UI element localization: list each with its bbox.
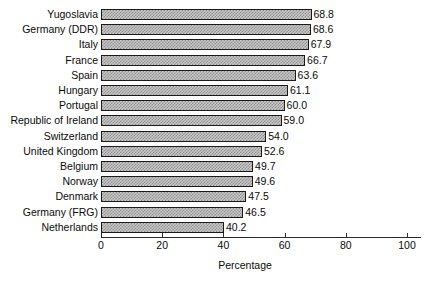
bar xyxy=(101,176,253,187)
x-axis-tick xyxy=(285,233,286,237)
bar-row: 61.1 xyxy=(101,85,407,96)
category-label: Belgium xyxy=(0,161,98,172)
category-label: Norway xyxy=(0,176,98,187)
category-label: Spain xyxy=(0,70,98,81)
x-axis-title: Percentage xyxy=(0,259,442,271)
category-axis-labels: YugoslaviaGermany (DDR)ItalyFranceSpainH… xyxy=(0,9,98,237)
category-label: Netherlands xyxy=(0,222,98,233)
bar xyxy=(101,85,288,96)
bar-row: 59.0 xyxy=(101,115,407,126)
bar-row: 40.2 xyxy=(101,222,407,233)
bar xyxy=(101,24,311,35)
bar-row: 54.0 xyxy=(101,131,407,142)
bar-row: 46.5 xyxy=(101,207,407,218)
bar-row: 68.8 xyxy=(101,9,407,20)
bar-value-label: 61.1 xyxy=(288,84,310,96)
bar-row: 47.5 xyxy=(101,191,407,202)
category-label: United Kingdom xyxy=(0,146,98,157)
plot-area: 68.868.667.966.763.661.160.059.054.052.6… xyxy=(101,9,407,237)
x-axis-tick-label: 80 xyxy=(340,239,352,251)
bar-row: 60.0 xyxy=(101,100,407,111)
bar-row: 68.6 xyxy=(101,24,407,35)
bar xyxy=(101,161,253,172)
x-axis-tick-label: 100 xyxy=(398,239,416,251)
bar-row: 63.6 xyxy=(101,70,407,81)
bar xyxy=(101,207,243,218)
bar xyxy=(101,222,224,233)
x-axis-title-text: Percentage xyxy=(170,259,272,271)
x-axis-tick-label: 60 xyxy=(279,239,291,251)
bar xyxy=(101,100,285,111)
bar xyxy=(101,39,309,50)
x-axis-tick xyxy=(407,233,408,237)
category-label: Denmark xyxy=(0,191,98,202)
category-label: Republic of Ireland xyxy=(0,115,98,126)
bar-value-label: 46.5 xyxy=(243,206,265,218)
category-label: Portugal xyxy=(0,100,98,111)
bar xyxy=(101,115,282,126)
bar-row: 49.6 xyxy=(101,176,407,187)
bar-value-label: 49.6 xyxy=(253,175,275,187)
bar-value-label: 40.2 xyxy=(224,221,246,233)
bar-value-label: 54.0 xyxy=(266,130,288,142)
x-axis-tick xyxy=(223,233,224,237)
bar-value-label: 68.8 xyxy=(312,8,334,20)
bar-value-label: 47.5 xyxy=(246,190,268,202)
bar-value-label: 59.0 xyxy=(282,114,304,126)
x-axis-tick xyxy=(346,233,347,237)
x-axis-tick xyxy=(101,233,102,237)
category-label: Italy xyxy=(0,39,98,50)
category-label: Germany (DDR) xyxy=(0,24,98,35)
x-axis-line xyxy=(101,237,421,238)
bar-row: 49.7 xyxy=(101,161,407,172)
bar-value-label: 67.9 xyxy=(309,38,331,50)
bar xyxy=(101,70,296,81)
bar-value-label: 52.6 xyxy=(262,145,284,157)
bar xyxy=(101,191,246,202)
x-axis-tick-label: 20 xyxy=(156,239,168,251)
bar-value-label: 49.7 xyxy=(253,160,275,172)
category-label: Germany (FRG) xyxy=(0,207,98,218)
bar xyxy=(101,146,262,157)
bar-row: 52.6 xyxy=(101,146,407,157)
category-label: Yugoslavia xyxy=(0,9,98,20)
bar-value-label: 68.6 xyxy=(311,23,333,35)
bar xyxy=(101,9,312,20)
x-axis-tick-label: 40 xyxy=(218,239,230,251)
bar xyxy=(101,131,266,142)
x-axis-tick xyxy=(162,233,163,237)
bar-value-label: 66.7 xyxy=(305,54,327,66)
category-label: Switzerland xyxy=(0,131,98,142)
bar xyxy=(101,55,305,66)
bar-chart: YugoslaviaGermany (DDR)ItalyFranceSpainH… xyxy=(0,0,442,281)
category-label: Hungary xyxy=(0,85,98,96)
x-axis-tick-label: 0 xyxy=(98,239,104,251)
category-label: France xyxy=(0,55,98,66)
bar-value-label: 63.6 xyxy=(296,69,318,81)
bar-row: 67.9 xyxy=(101,39,407,50)
bar-value-label: 60.0 xyxy=(285,99,307,111)
bar-row: 66.7 xyxy=(101,55,407,66)
